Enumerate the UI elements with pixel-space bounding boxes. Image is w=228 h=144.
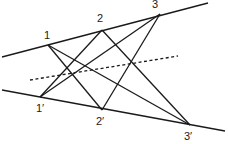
pappus-diagram: 1 2 3 1′ 2′ 3′ [0,0,228,144]
top-line [2,3,208,57]
label-2prime: 2′ [96,115,104,127]
label-3: 3 [152,0,158,10]
line-3-1prime [40,14,160,97]
label-3prime: 3′ [184,130,192,142]
label-2: 2 [97,12,103,24]
label-1prime: 1′ [36,102,44,114]
label-1: 1 [44,29,50,41]
line-1-3prime [48,45,190,125]
